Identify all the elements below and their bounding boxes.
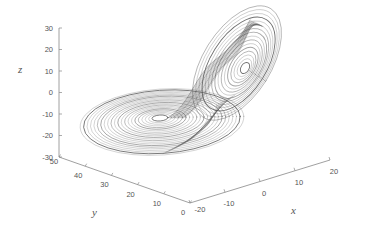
y-tick-label: 10 [153, 199, 161, 208]
lorenz-3d-plot: 3020100-10-20-3050403020100-20-1001020 z… [0, 0, 366, 232]
z-tick-label: 20 [45, 45, 53, 54]
z-tick-label: 0 [49, 88, 53, 97]
x-tick-label: 20 [330, 167, 338, 176]
x-tick-label: 0 [262, 189, 266, 198]
y-tick-label: 0 [181, 208, 185, 217]
z-tick-label: -10 [42, 110, 53, 119]
x-tick-label: 10 [295, 178, 303, 187]
y-tick-label: 20 [126, 190, 134, 199]
z-tick-label: 30 [45, 24, 53, 33]
z-tick-label: 10 [45, 67, 53, 76]
y-tick-label: 40 [74, 171, 82, 180]
x-tick-label: -10 [224, 199, 235, 208]
x-tick-label: -20 [195, 205, 206, 214]
z-axis-label: z [17, 63, 23, 75]
axes [59, 28, 330, 203]
y-axis-label: y [91, 206, 97, 218]
tick-labels: 3020100-10-20-3050403020100-20-1001020 [42, 24, 338, 218]
y-tick-label: 50 [50, 157, 58, 166]
x-axis-label: x [290, 204, 296, 216]
tick-marks [59, 28, 330, 203]
attractor-trajectory [78, 0, 300, 161]
z-tick-label: -20 [42, 131, 53, 140]
y-tick-label: 30 [100, 180, 108, 189]
